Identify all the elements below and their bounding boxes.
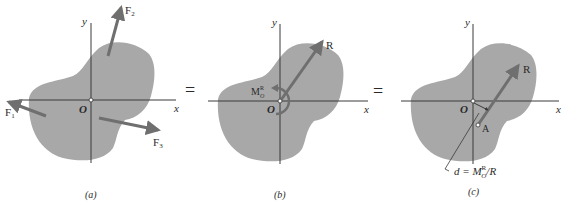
force-system-diagram: y x O F1 F2 F3 (a) = y x O R MRO (b) = bbox=[0, 0, 563, 203]
origin-point bbox=[471, 99, 475, 103]
y-axis-label: y bbox=[81, 15, 87, 27]
distance-equation: d = MRO/R bbox=[454, 164, 496, 180]
panel-a: y x O F1 F2 F3 (a) bbox=[5, 4, 179, 201]
equals-sign-1: = bbox=[185, 80, 195, 100]
caption-b: (b) bbox=[274, 189, 286, 201]
y-axis-label: y bbox=[271, 16, 277, 28]
origin-point bbox=[89, 98, 93, 102]
force-label-f1: F1 bbox=[5, 106, 15, 120]
resultant-label: R bbox=[523, 63, 531, 75]
x-axis-label: x bbox=[173, 102, 179, 114]
origin-label: O bbox=[460, 103, 468, 115]
point-a bbox=[476, 123, 480, 127]
force-label-f3: F3 bbox=[153, 136, 163, 150]
panel-b: y x O R MRO (b) bbox=[208, 16, 369, 201]
y-axis-label: y bbox=[464, 16, 470, 28]
point-a-label: A bbox=[482, 123, 490, 134]
equals-sign-2: = bbox=[373, 81, 383, 101]
origin-point bbox=[278, 99, 282, 103]
origin-label: O bbox=[267, 103, 275, 115]
caption-c: (c) bbox=[468, 186, 480, 198]
force-label-f2: F2 bbox=[125, 4, 135, 18]
x-axis-label: x bbox=[363, 103, 369, 115]
caption-a: (a) bbox=[85, 189, 97, 201]
x-axis-label: x bbox=[555, 103, 561, 115]
panel-c: y x O R A d = MRO/R (c) bbox=[401, 16, 561, 198]
resultant-label: R bbox=[326, 39, 334, 51]
origin-label: O bbox=[79, 103, 87, 115]
